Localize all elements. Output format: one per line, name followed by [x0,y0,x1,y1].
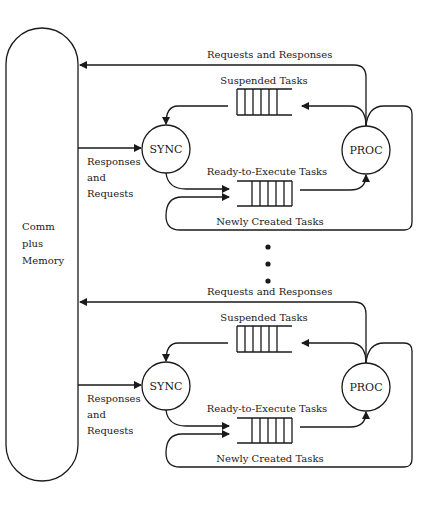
requests-label: Requests [87,425,134,436]
memory-label-line-3: Memory [22,255,64,266]
newly-created-tasks-label: Newly Created Tasks [216,216,323,227]
processor-unit-1: Requests and Responses Responses and Req… [78,49,412,230]
ready-to-execute-queue [237,181,292,206]
sync-label: SYNC [150,380,183,393]
processor-unit-2: Requests and Responses Responses and Req… [78,286,412,467]
suspended-tasks-label: Suspended Tasks [220,75,307,86]
memory-label-line-1: Comm [22,221,55,232]
comm-memory-block: Comm plus Memory [6,28,78,481]
suspended-tasks-queue [237,89,292,115]
sync-label: SYNC [150,143,183,156]
vertical-ellipsis [265,244,270,283]
ready-to-execute-label: Ready-to-Execute Tasks [207,166,327,177]
and-label: and [87,172,106,183]
responses-label: Responses [87,393,141,404]
ready-to-execute-queue [237,418,292,443]
newly-created-tasks-label: Newly Created Tasks [216,453,323,464]
requests-responses-label: Requests and Responses [207,49,332,60]
requests-label: Requests [87,188,134,199]
suspended-tasks-queue [237,326,292,352]
requests-responses-label: Requests and Responses [207,286,332,297]
memory-label-line-2: plus [22,238,43,249]
multiprocessor-diagram: Comm plus Memory Requests and Responses … [0,0,435,511]
proc-label: PROC [349,381,382,394]
proc-label: PROC [349,144,382,157]
ready-to-execute-label: Ready-to-Execute Tasks [207,403,327,414]
responses-label: Responses [87,156,141,167]
suspended-tasks-label: Suspended Tasks [220,312,307,323]
and-label: and [87,409,106,420]
